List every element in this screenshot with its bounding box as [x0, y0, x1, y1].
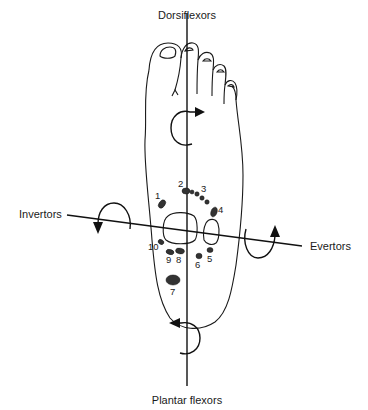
arrowhead-right-icon — [195, 107, 205, 117]
point-7-spot — [166, 275, 180, 285]
plantar-flexors-label: Plantar flexors — [152, 394, 223, 406]
point-3-spot-d — [205, 200, 209, 204]
point-4-label: 4 — [218, 204, 223, 215]
point-10-label: 10 — [148, 241, 159, 252]
point-1-label: 1 — [155, 190, 160, 201]
invertors-label: Invertors — [19, 208, 62, 220]
calcaneus-lateral-outline — [204, 219, 219, 244]
big-toe-nail — [160, 47, 176, 58]
foot-outline — [145, 43, 243, 329]
arrowhead-up-icon — [270, 225, 280, 237]
transverse-axis — [67, 215, 302, 246]
point-5-label: 5 — [207, 253, 212, 264]
point-6-label: 6 — [195, 259, 200, 270]
point-8-label: 8 — [176, 254, 181, 265]
point-9-label: 9 — [166, 254, 171, 265]
big-toe-outline — [149, 43, 181, 90]
point-3-spot-c — [200, 196, 204, 200]
point-7-label: 7 — [170, 286, 175, 297]
fourth-toe-outline — [213, 65, 226, 104]
eversion-arrow — [245, 225, 280, 258]
point-2-label: 2 — [178, 178, 183, 189]
arrowhead-down-icon — [93, 222, 103, 234]
point-3-label: 3 — [201, 183, 206, 194]
fifth-toe-outline — [225, 81, 237, 100]
point-3-spot-a — [190, 190, 194, 194]
evertors-label: Evertors — [310, 240, 351, 252]
inversion-arrow — [93, 203, 130, 234]
foot-diagram: 1 2 3 4 5 6 7 8 9 10 Dorsiflexors Planta… — [0, 0, 368, 410]
insertion-points — [157, 188, 219, 285]
dorsiflexors-label: Dorsiflexors — [158, 9, 217, 21]
point-6-spot — [196, 253, 202, 259]
dorsiflexion-arrow — [171, 107, 205, 145]
point-5-spot — [207, 248, 213, 253]
point-3-spot-b — [195, 192, 199, 196]
plantar-flexion-arrow — [169, 318, 200, 354]
